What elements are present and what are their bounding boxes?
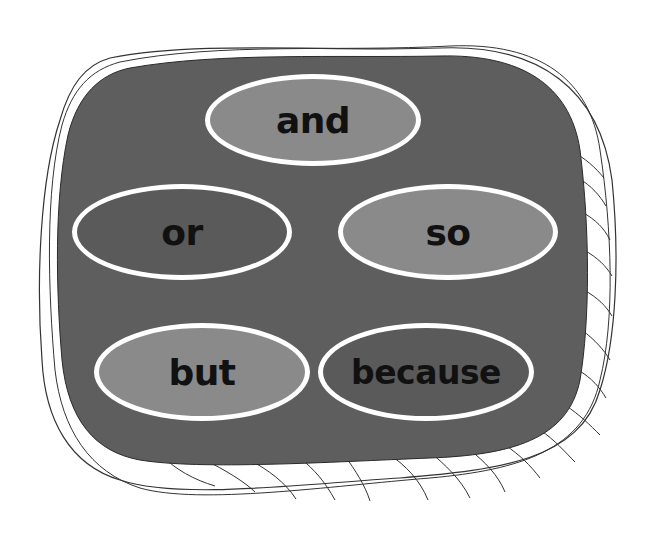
oval-so: so xyxy=(338,184,558,280)
oval-and: and xyxy=(205,74,421,166)
oval-label-but: but xyxy=(168,352,235,393)
oval-because: because xyxy=(318,323,534,421)
oval-or: or xyxy=(72,184,292,280)
oval-label-and: and xyxy=(276,100,350,141)
oval-label-so: so xyxy=(425,212,470,253)
conjunctions-diagram: and or so but because xyxy=(0,0,646,540)
oval-label-because: because xyxy=(351,353,501,392)
oval-label-or: or xyxy=(161,212,203,253)
oval-but: but xyxy=(94,323,310,421)
